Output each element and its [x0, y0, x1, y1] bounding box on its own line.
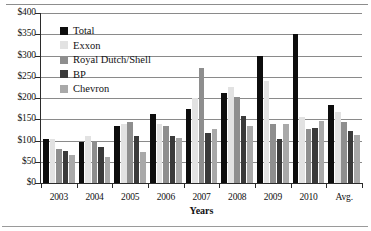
bar — [85, 136, 91, 183]
x-axis-tick-label: Avg. — [326, 191, 362, 205]
legend-swatch-icon — [60, 41, 68, 49]
bar — [56, 149, 62, 183]
x-axis-tick-label: 2003 — [41, 191, 77, 205]
bar — [170, 136, 176, 183]
bar — [277, 139, 283, 183]
legend-swatch-icon — [60, 56, 68, 64]
bar — [140, 152, 146, 183]
bar — [293, 34, 299, 183]
legend-item-label: Royal Dutch/Shell — [73, 54, 151, 65]
bar — [43, 139, 49, 183]
bar — [134, 136, 140, 183]
chart-legend: TotalExxonRoyal Dutch/ShellBPChevron — [60, 24, 151, 95]
bar — [264, 81, 270, 183]
bottom-divider — [2, 226, 368, 227]
bar — [63, 151, 69, 183]
legend-item-label: Chevron — [73, 83, 109, 94]
bar — [205, 133, 211, 183]
bar — [341, 122, 347, 183]
legend-item: Royal Dutch/Shell — [60, 53, 151, 66]
bar — [283, 124, 289, 183]
legend-swatch-icon — [60, 70, 68, 78]
bar-group — [326, 13, 362, 183]
x-axis-tick-label: 2008 — [219, 191, 255, 205]
bar — [257, 56, 263, 184]
bar — [176, 138, 182, 183]
bar-group — [148, 13, 184, 183]
y-axis-tick-label: $50 — [22, 157, 36, 167]
bar-group — [184, 13, 220, 183]
bar — [306, 129, 312, 183]
bar — [114, 126, 120, 183]
bar — [270, 124, 276, 183]
bar — [234, 97, 240, 183]
bar — [221, 93, 227, 183]
y-axis-tick-label: $200 — [17, 93, 36, 103]
bar — [247, 126, 253, 183]
bar — [335, 112, 341, 183]
bar — [319, 121, 325, 183]
bar — [157, 124, 163, 184]
legend-item-label: Total — [73, 25, 94, 36]
bar — [241, 116, 247, 183]
y-axis-tick-label: $350 — [17, 29, 36, 39]
y-axis-tick-label: $100 — [17, 136, 36, 146]
x-axis-title: Years — [41, 205, 362, 216]
bar — [163, 126, 169, 183]
legend-swatch-icon — [60, 85, 68, 93]
bar-group — [255, 13, 291, 183]
x-axis-labels: 20032004200520062007200820092010Avg. — [41, 191, 362, 205]
legend-item-label: Exxon — [73, 40, 100, 51]
bar — [192, 98, 198, 183]
bar-group — [291, 13, 327, 183]
bar — [150, 114, 156, 183]
y-axis-labels: $400$350$300$250$200$150$100$50$0 — [0, 13, 36, 184]
y-axis-tick-label: $300 — [17, 51, 36, 61]
bar — [354, 135, 360, 183]
bar — [312, 128, 318, 183]
top-divider — [6, 4, 368, 5]
y-axis-tick-label: $150 — [17, 114, 36, 124]
bar — [348, 131, 354, 183]
bar — [127, 122, 133, 183]
bar — [212, 129, 218, 183]
bar — [98, 147, 104, 183]
legend-item: Exxon — [60, 39, 151, 52]
x-axis-tick-label: 2009 — [255, 191, 291, 205]
x-axis-tick-label: 2007 — [184, 191, 220, 205]
legend-item: Total — [60, 24, 151, 37]
x-axis-tick-label: 2004 — [77, 191, 113, 205]
x-axis-tick-label: 2005 — [112, 191, 148, 205]
bar — [328, 105, 334, 183]
x-axis-tick-label: 2010 — [291, 191, 327, 205]
bar — [199, 68, 205, 183]
bar — [69, 155, 75, 183]
legend-item-label: BP — [73, 69, 86, 80]
bar — [228, 87, 234, 183]
legend-item: Chevron — [60, 82, 151, 95]
bar — [50, 139, 56, 183]
legend-swatch-icon — [60, 27, 68, 35]
bar — [79, 142, 85, 183]
y-axis-tick-label: $250 — [17, 72, 36, 82]
bar — [92, 141, 98, 184]
bar — [186, 109, 192, 183]
bar — [121, 124, 127, 184]
chart-figure: $400$350$300$250$200$150$100$50$0 200320… — [0, 0, 371, 231]
legend-item: BP — [60, 68, 151, 81]
bar — [105, 157, 111, 183]
x-axis-tick-label: 2006 — [148, 191, 184, 205]
bar — [299, 117, 305, 183]
bar-group — [219, 13, 255, 183]
y-axis-tick-label: $400 — [17, 8, 36, 18]
